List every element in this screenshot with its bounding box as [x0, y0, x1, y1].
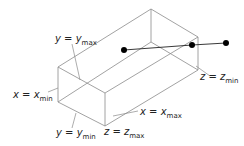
- clipping-volume-diagram: y = ymax x = xmin y = ymin z = zmax x = …: [0, 0, 244, 146]
- box-edge: [58, 102, 105, 126]
- box-edge: [105, 70, 198, 126]
- point-icon: [223, 40, 229, 46]
- leader-x-max: [113, 111, 138, 116]
- label-z-max: z = zmax: [103, 126, 145, 140]
- point-icon: [189, 42, 195, 48]
- box-edge: [58, 67, 105, 93]
- leader-y-max: [72, 44, 80, 80]
- label-x-min: x = xmin: [12, 89, 53, 103]
- box: [58, 9, 198, 126]
- leader-y-min: [72, 113, 76, 128]
- box-edge: [151, 9, 198, 37]
- label-x-max: x = xmax: [139, 106, 182, 120]
- point-icon: [121, 47, 127, 53]
- segment-outer: [192, 43, 226, 45]
- label-y-min: y = ymin: [55, 127, 96, 141]
- label-y-max: y = ymax: [54, 33, 97, 47]
- label-z-min: z = zmin: [199, 71, 238, 85]
- leader-x-min: [48, 88, 58, 92]
